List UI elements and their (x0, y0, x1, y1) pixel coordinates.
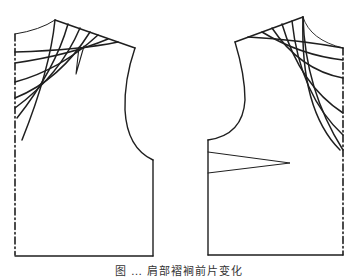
left-neckline (15, 20, 55, 34)
figure-caption: 图 … 肩部褶裥前片变化 (0, 262, 358, 278)
right-radiating-pleat-lines (248, 17, 343, 150)
left-armhole (125, 48, 153, 160)
left-front-piece (15, 20, 153, 256)
left-radiating-pleat-lines (15, 20, 118, 140)
right-side-dart (208, 152, 290, 173)
right-front-piece (208, 17, 343, 255)
right-armhole (208, 42, 245, 140)
